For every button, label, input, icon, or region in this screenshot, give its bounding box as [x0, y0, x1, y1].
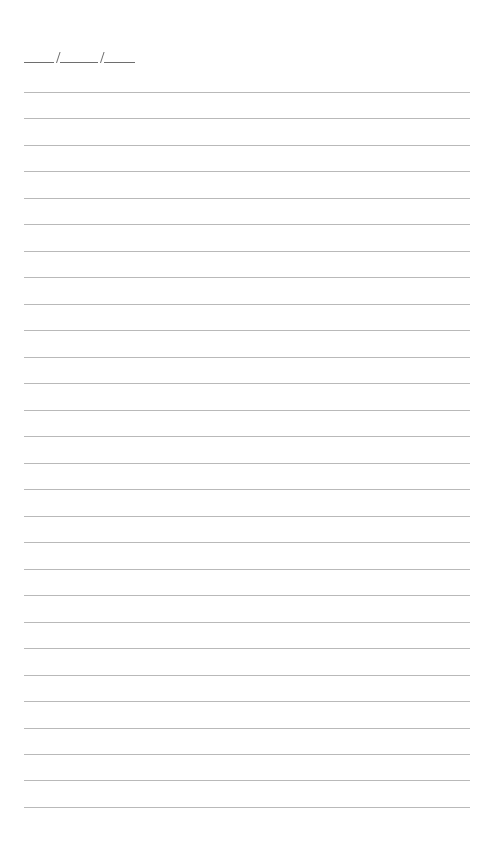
writing-line	[24, 807, 470, 808]
writing-line	[24, 357, 470, 358]
writing-line	[24, 251, 470, 252]
writing-line	[24, 383, 470, 384]
writing-line	[24, 436, 470, 437]
writing-line	[24, 728, 470, 729]
writing-line	[24, 754, 470, 755]
writing-line	[24, 330, 470, 331]
writing-line	[24, 780, 470, 781]
writing-line	[24, 224, 470, 225]
ruled-lines	[0, 0, 488, 850]
writing-line	[24, 648, 470, 649]
writing-line	[24, 277, 470, 278]
writing-line	[24, 304, 470, 305]
writing-line	[24, 198, 470, 199]
writing-line	[24, 489, 470, 490]
writing-line	[24, 516, 470, 517]
writing-line	[24, 675, 470, 676]
writing-line	[24, 171, 470, 172]
writing-line	[24, 701, 470, 702]
writing-line	[24, 463, 470, 464]
writing-line	[24, 542, 470, 543]
writing-line	[24, 622, 470, 623]
writing-line	[24, 595, 470, 596]
writing-line	[24, 145, 470, 146]
writing-line	[24, 118, 470, 119]
writing-line	[24, 569, 470, 570]
writing-line	[24, 410, 470, 411]
writing-line	[24, 92, 470, 93]
